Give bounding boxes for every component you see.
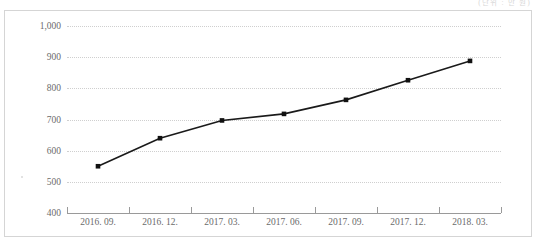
data-point-marker bbox=[282, 112, 287, 117]
data-point-marker bbox=[468, 59, 473, 64]
plot-area: 1,000900800700600500400 2016. 09.2016. 1… bbox=[5, 11, 533, 238]
chart-screenshot: (단위 : 만 원) 1,000900800700600500400 2016.… bbox=[0, 0, 537, 243]
data-point-marker bbox=[158, 136, 163, 141]
data-series-layer bbox=[5, 11, 533, 238]
chart-frame: 1,000900800700600500400 2016. 09.2016. 1… bbox=[4, 10, 532, 237]
data-point-marker bbox=[344, 98, 349, 103]
data-point-marker bbox=[406, 78, 411, 83]
unit-note: (단위 : 만 원) bbox=[478, 0, 531, 7]
data-point-marker bbox=[96, 164, 101, 169]
data-point-marker bbox=[220, 118, 225, 123]
artifact-dot bbox=[21, 176, 23, 178]
series-markers bbox=[96, 59, 473, 169]
